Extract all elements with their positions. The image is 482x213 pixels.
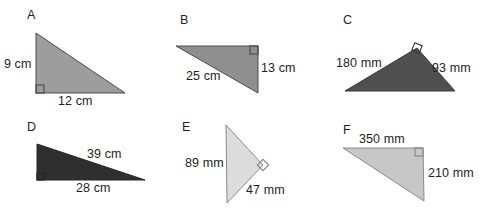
- dimension-label-210mm: 210 mm: [428, 167, 474, 180]
- dimension-label-350mm: 350 mm: [359, 133, 405, 146]
- figure-letter-f: F: [343, 124, 351, 137]
- triangle-shape-f: [343, 148, 424, 201]
- triangle-f: [0, 0, 482, 213]
- worksheet-canvas: A9 cm12 cmB25 cm13 cmC180 mm93 mmD39 cm2…: [0, 0, 482, 213]
